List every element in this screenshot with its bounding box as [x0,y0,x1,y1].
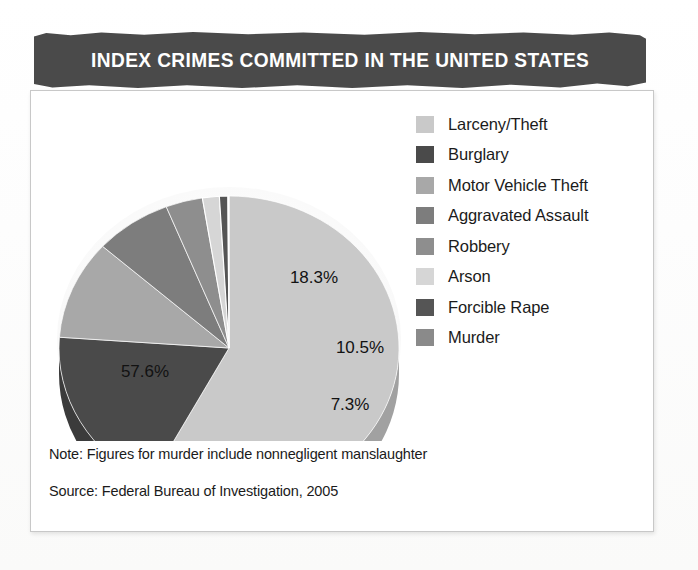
legend-swatch-icon [416,329,434,346]
legend-swatch-icon [416,299,434,316]
pie-chart-svg: 57.6% 18.3% 10.5% 7.3% 3.5% 1.6% 0.8% 0.… [31,91,431,441]
pie-label-larceny: 57.6% [121,362,169,381]
legend-item-burglary[interactable]: Burglary [416,140,651,171]
legend-item-forcible-rape[interactable]: Forcible Rape [416,292,651,323]
legend-swatch-icon [416,268,434,285]
pie-label-burglary: 18.3% [290,268,338,287]
legend-swatch-icon [416,116,434,133]
pie-chart: 57.6% 18.3% 10.5% 7.3% 3.5% 1.6% 0.8% 0.… [31,91,431,441]
note-text: Note: Figures for murder include nonnegl… [49,446,629,462]
title-banner: INDEX CRIMES COMMITTED IN THE UNITED STA… [34,32,646,88]
legend-swatch-icon [416,207,434,224]
legend: Larceny/Theft Burglary Motor Vehicle The… [416,109,651,353]
chart-footnotes: Note: Figures for murder include nonnegl… [49,446,629,499]
chart-frame: 57.6% 18.3% 10.5% 7.3% 3.5% 1.6% 0.8% 0.… [30,90,654,532]
pie-label-motor-vehicle-theft: 10.5% [336,338,384,357]
legend-label: Larceny/Theft [448,115,548,134]
page-title: INDEX CRIMES COMMITTED IN THE UNITED STA… [91,49,589,72]
source-text: Source: Federal Bureau of Investigation,… [49,483,629,499]
legend-label: Murder [448,328,500,347]
legend-label: Arson [448,267,491,286]
legend-item-robbery[interactable]: Robbery [416,231,651,262]
legend-item-motor-vehicle-theft[interactable]: Motor Vehicle Theft [416,170,651,201]
legend-item-larceny-theft[interactable]: Larceny/Theft [416,109,651,140]
legend-swatch-icon [416,177,434,194]
legend-label: Aggravated Assault [448,206,588,225]
legend-label: Motor Vehicle Theft [448,176,588,195]
legend-item-aggravated-assault[interactable]: Aggravated Assault [416,201,651,232]
legend-label: Forcible Rape [448,298,549,317]
legend-item-murder[interactable]: Murder [416,323,651,354]
legend-label: Burglary [448,145,509,164]
legend-swatch-icon [416,238,434,255]
legend-label: Robbery [448,237,510,256]
legend-item-arson[interactable]: Arson [416,262,651,293]
legend-swatch-icon [416,146,434,163]
pie-label-aggravated-assault: 7.3% [331,395,370,414]
